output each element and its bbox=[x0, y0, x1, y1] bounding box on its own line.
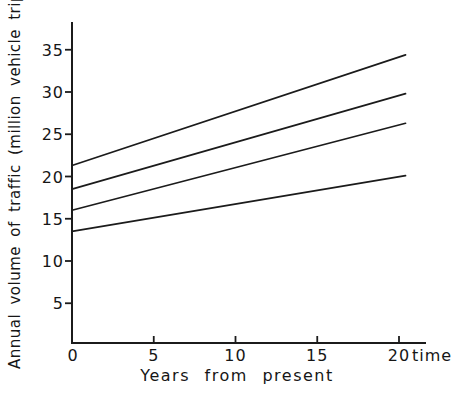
y-tick-label: 5 bbox=[53, 294, 64, 313]
x-tick-label: 10 bbox=[224, 346, 246, 365]
y-tick-label: 35 bbox=[42, 41, 64, 60]
forecast-line-3 bbox=[72, 123, 406, 210]
forecast-line-4 bbox=[72, 176, 406, 232]
y-tick-label: 20 bbox=[42, 168, 64, 187]
x-axis-time-label: time bbox=[412, 346, 452, 365]
y-tick-label: 25 bbox=[42, 125, 64, 144]
traffic-forecast-figure: 510152025303505101520 Annual volume of t… bbox=[0, 0, 462, 406]
y-tick-label: 10 bbox=[42, 252, 64, 271]
x-tick-label: 20 bbox=[388, 346, 410, 365]
y-tick-label: 15 bbox=[42, 210, 64, 229]
x-tick-label: 0 bbox=[67, 346, 78, 365]
forecast-line-2 bbox=[72, 94, 406, 189]
x-tick-label: 15 bbox=[306, 346, 328, 365]
forecast-line-1 bbox=[72, 55, 406, 166]
chart-canvas: 510152025303505101520 bbox=[0, 0, 462, 406]
y-tick-label: 30 bbox=[42, 83, 64, 102]
y-axis-title: Annual volume of traffic (million vehicl… bbox=[6, 9, 28, 369]
x-tick-label: 5 bbox=[148, 346, 159, 365]
x-axis-title: Years from present bbox=[72, 366, 402, 385]
